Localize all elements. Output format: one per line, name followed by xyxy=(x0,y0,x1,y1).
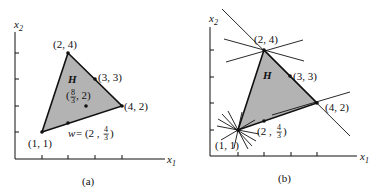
svg-text:3: 3 xyxy=(71,96,75,105)
point-w xyxy=(66,121,70,125)
caption-a: (a) xyxy=(82,175,95,188)
svg-text:): ) xyxy=(283,125,287,138)
label-1-1: (1, 1) xyxy=(28,137,52,150)
convex-hull-H xyxy=(238,50,317,130)
svg-text:(: ( xyxy=(66,89,70,102)
label-4-2: (4, 2) xyxy=(124,100,148,113)
panel-b: x2 x1 (2, 4) (4, 2) (1, 1) (3, 3) H (2 ,… xyxy=(208,9,369,185)
point-3-3 xyxy=(93,77,97,81)
label-2-4: (2, 4) xyxy=(254,33,278,46)
x-axis-label: x1 xyxy=(166,153,176,168)
svg-text:): ) xyxy=(110,127,114,140)
y-ticks xyxy=(210,50,214,130)
vertex-2-4 xyxy=(262,48,266,52)
label-2-4: (2, 4) xyxy=(53,38,77,51)
x-ticks xyxy=(42,155,122,159)
label-3-3: (3, 3) xyxy=(98,71,122,84)
caption-b: (b) xyxy=(278,172,291,185)
svg-text:3: 3 xyxy=(104,133,108,142)
vertex-1-1 xyxy=(40,130,44,134)
label-4-2: (4, 2) xyxy=(325,101,349,114)
panel-a: x2 x1 (2, 4) (4, 2) (1, 1) (3, 3) H ( 8 … xyxy=(13,18,176,188)
svg-text:= (2 ,: = (2 , xyxy=(76,127,100,140)
x-ticks xyxy=(238,152,317,156)
label-3-3: (3, 3) xyxy=(293,70,317,83)
y-axis-label: x2 xyxy=(13,18,23,33)
label-1-1: (1, 1) xyxy=(215,139,239,152)
svg-text:w: w xyxy=(68,127,76,139)
svg-text:3: 3 xyxy=(277,131,281,140)
vertex-2-4 xyxy=(66,51,70,55)
vertex-4-2 xyxy=(315,101,319,105)
point-3-3 xyxy=(288,74,292,78)
y-ticks xyxy=(15,53,19,132)
region-label-H: H xyxy=(67,73,77,85)
figure: x2 x1 (2, 4) (4, 2) (1, 1) (3, 3) H ( 8 … xyxy=(0,0,378,195)
label-w: w = (2 , 4 3 ) xyxy=(68,125,114,142)
vertex-1-1 xyxy=(236,128,240,132)
region-label-H: H xyxy=(262,69,272,81)
svg-text:, 2): , 2) xyxy=(76,89,91,102)
x-axis-label: x1 xyxy=(359,150,369,165)
label-2-4-3: (2 , 4 3 ) xyxy=(257,123,287,140)
point-2-4-3 xyxy=(262,119,266,123)
y-axis-label: x2 xyxy=(208,12,218,27)
svg-text:(2 ,: (2 , xyxy=(257,125,272,138)
point-8-3-2 xyxy=(84,104,88,108)
